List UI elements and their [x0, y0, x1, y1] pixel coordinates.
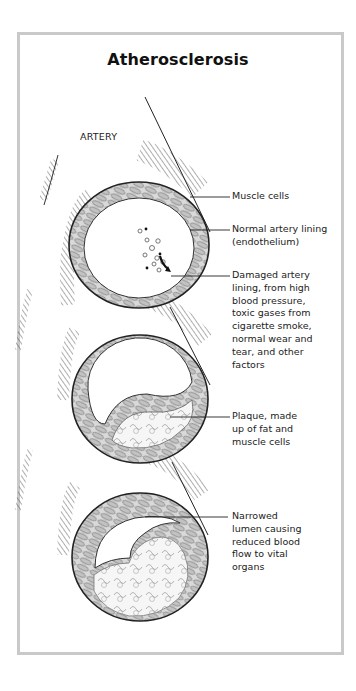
- plaque-forming-artery: [72, 335, 208, 463]
- vessel-tube: [18, 97, 210, 555]
- callout-plaque: Plaque, made up of fat and muscle cells: [232, 410, 337, 448]
- callout-muscle-cells: Muscle cells: [232, 190, 337, 203]
- narrowed-artery: [72, 493, 208, 621]
- callout-narrowed-lumen: Narrowed lumen causing reduced blood flo…: [232, 510, 337, 574]
- callout-damaged-lining: Damaged artery lining, from high blood p…: [232, 269, 337, 371]
- callout-normal-lining: Normal artery lining (endothelium): [232, 223, 337, 249]
- healthy-artery: [69, 182, 209, 308]
